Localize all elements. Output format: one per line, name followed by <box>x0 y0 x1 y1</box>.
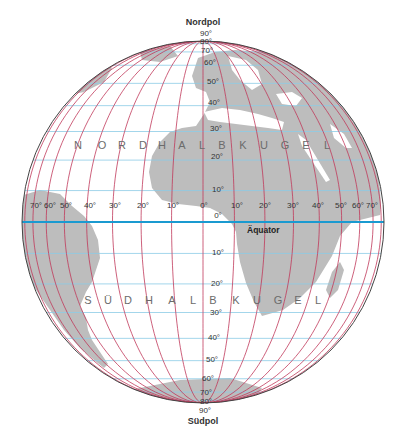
lon-label-w70: 70° <box>30 202 42 210</box>
lon-label-e70: 70° <box>366 202 378 210</box>
lat-label-n50: 50° <box>207 78 219 86</box>
hemi-north-letter: D <box>139 139 147 151</box>
hemi-north-letter: K <box>239 139 246 151</box>
hemi-south-letter: U <box>253 294 261 306</box>
hemi-south-letter: A <box>168 294 175 306</box>
lat-label-n10: 10° <box>212 186 224 194</box>
lon-label-0: 0° <box>200 202 208 210</box>
hemi-north-letter: H <box>158 139 166 151</box>
hemi-south-letter: G <box>274 294 283 306</box>
hemi-north-letter: R <box>118 139 126 151</box>
lat-label-n60: 60° <box>204 59 216 67</box>
lon-label-e20: 20° <box>259 202 271 210</box>
lon-label-w20: 20° <box>137 202 149 210</box>
hemi-south-letter: D <box>124 294 132 306</box>
lon-label-e60: 60° <box>352 202 364 210</box>
hemi-north-letter: B <box>218 139 225 151</box>
lat-label-n80: 80° <box>200 38 212 46</box>
globe-diagram: Nordpol Südpol 90° 80° 70° 60° 50° 40° 3… <box>0 0 401 442</box>
lon-label-w30: 30° <box>109 202 121 210</box>
lat-label-0: 0° <box>214 212 222 220</box>
lon-label-w60: 60° <box>44 202 56 210</box>
lat-label-s70: 70° <box>200 389 212 397</box>
lat-label-n30: 30° <box>210 125 222 133</box>
hemi-north-letter: O <box>98 139 107 151</box>
lat-label-s40: 40° <box>208 334 220 342</box>
lat-label-s80: 80° <box>200 398 212 406</box>
hemi-north-letter: L <box>324 139 330 151</box>
lat-label-s60: 60° <box>202 375 214 383</box>
lat-label-n20: 20° <box>211 153 223 161</box>
hemi-north-letter: N <box>74 139 82 151</box>
hemi-north-letter: L <box>199 139 205 151</box>
hemi-north-letter: G <box>281 139 290 151</box>
north-pole-label: Nordpol <box>186 17 221 27</box>
lat-label-s50: 50° <box>206 356 218 364</box>
equator-label: Äquator <box>247 225 280 235</box>
lon-label-w10: 10° <box>167 202 179 210</box>
hemi-south-letter: H <box>145 294 153 306</box>
globe-graticule <box>0 0 401 442</box>
lon-label-w40: 40° <box>84 202 96 210</box>
lon-label-w50: 50° <box>60 202 72 210</box>
hemi-south-letter: K <box>232 294 239 306</box>
lon-label-e30: 30° <box>287 202 299 210</box>
hemi-north-letter: A <box>178 139 185 151</box>
lon-label-e50: 50° <box>335 202 347 210</box>
lat-label-s20: 20° <box>211 280 223 288</box>
lat-label-s90: 90° <box>199 407 211 415</box>
hemi-south-letter: B <box>209 294 216 306</box>
lat-label-n70: 70° <box>201 47 213 55</box>
lon-label-e40: 40° <box>312 202 324 210</box>
hemi-north-letter: E <box>302 139 309 151</box>
lon-label-e10: 10° <box>231 202 243 210</box>
hemi-south-letter: E <box>294 294 301 306</box>
south-pole-label: Südpol <box>188 416 219 426</box>
lat-label-n40: 40° <box>208 99 220 107</box>
hemi-south-letter: L <box>190 294 196 306</box>
lat-label-s10: 10° <box>212 249 224 257</box>
hemi-south-letter: L <box>315 294 321 306</box>
hemi-north-letter: U <box>260 139 268 151</box>
hemi-south-letter: S <box>84 294 91 306</box>
lat-label-s30: 30° <box>210 309 222 317</box>
hemi-south-letter: Ü <box>104 294 112 306</box>
